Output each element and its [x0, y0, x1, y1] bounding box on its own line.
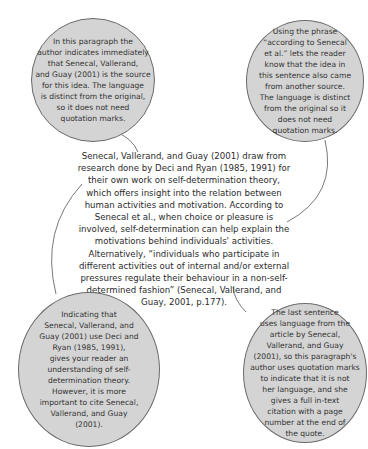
annotation-top-right: Using the phrase “according to Senecal e… [246, 20, 364, 142]
annotation-top-right-text: Using the phrase “according to Senecal e… [259, 26, 351, 136]
annotation-bottom-right: The last sentence uses language from the… [243, 303, 367, 443]
annotation-top-left-text: In this paragraph the author indicates i… [35, 36, 150, 124]
annotation-bottom-right-text: The last sentence uses language from the… [250, 307, 360, 439]
annotation-bottom-left-text: Indicating that Senecal, Vallerand, and … [39, 309, 138, 430]
main-paragraph: Senecal, Vallerand, and Guay (2001) draw… [70, 150, 298, 309]
annotation-top-left: In this paragraph the author indicates i… [31, 18, 155, 142]
annotation-bottom-left: Indicating that Senecal, Vallerand, and … [18, 292, 160, 447]
